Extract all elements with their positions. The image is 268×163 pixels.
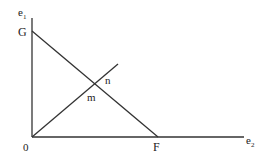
diagram: e1 e2 G 0 F m n — [0, 0, 268, 163]
x-axis-label: e2 — [246, 134, 255, 149]
label-n: n — [105, 74, 111, 86]
label-f: F — [153, 140, 160, 154]
label-g: G — [18, 25, 27, 39]
label-origin: 0 — [23, 141, 29, 153]
y-axis-label: e1 — [18, 6, 27, 21]
label-m: m — [87, 91, 96, 103]
